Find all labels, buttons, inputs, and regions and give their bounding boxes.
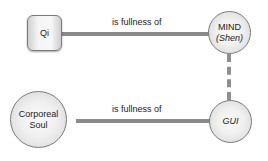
edge-label-top: is fullness of: [112, 17, 162, 27]
node-corporeal-soul: Corporeal Soul: [10, 91, 67, 148]
node-corporeal-soul-label-line1: Corporeal: [19, 109, 59, 120]
node-mind-sublabel: (Shen): [216, 33, 243, 44]
node-mind-label: MIND: [218, 22, 241, 33]
edge-mind-to-gui-dotted: [227, 54, 235, 100]
node-mind: MIND (Shen): [208, 11, 251, 54]
edge-qi-to-mind: [62, 32, 210, 36]
node-gui-label: GUI: [222, 116, 238, 127]
node-qi: Qi: [27, 15, 62, 51]
node-corporeal-soul-label-line2: Soul: [29, 120, 47, 131]
node-qi-label: Qi: [40, 28, 49, 39]
edge-label-bottom: is fullness of: [112, 104, 162, 114]
edge-corporeal-soul-to-gui: [76, 119, 210, 123]
node-gui: GUI: [209, 100, 252, 143]
